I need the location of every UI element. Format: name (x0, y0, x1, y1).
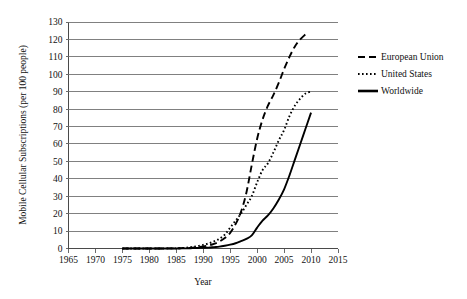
legend-label: Worldwide (381, 86, 423, 96)
legend-label: European Union (381, 52, 444, 62)
gridlines-group (69, 22, 339, 231)
line-chart-svg: 0102030405060708090100110120130 19651970… (0, 0, 467, 299)
y-axis-title: Mobile Cellular Subscriptions (per 100 p… (18, 45, 29, 225)
x-tick-label: 2015 (329, 255, 348, 265)
y-tick-label: 90 (53, 87, 63, 97)
legend: European UnionUnited StatesWorldwide (358, 52, 444, 96)
series-group (122, 34, 311, 248)
y-axis-group: 0102030405060708090100110120130 (48, 17, 68, 254)
legend-label: United States (381, 69, 432, 79)
x-tick-label: 2010 (302, 255, 321, 265)
y-tick-label: 60 (53, 139, 63, 149)
y-tick-label: 100 (48, 70, 63, 80)
y-tick-label: 80 (53, 105, 63, 115)
x-tick-label: 2005 (275, 255, 294, 265)
series-line-worldwide (122, 113, 311, 249)
y-tick-label: 40 (53, 174, 63, 184)
x-tick-label: 1990 (194, 255, 213, 265)
y-tick-label: 50 (53, 157, 63, 167)
x-tick-label: 2000 (248, 255, 267, 265)
y-tick-label: 30 (53, 192, 63, 202)
x-tick-label: 1970 (86, 255, 105, 265)
x-tick-label: 1975 (113, 255, 132, 265)
x-tick-label: 1980 (140, 255, 159, 265)
x-axis-group: 1965197019751980198519901995200020052010… (59, 249, 348, 265)
x-tick-label: 1995 (221, 255, 240, 265)
y-tick-label: 20 (53, 209, 63, 219)
y-tick-label: 110 (49, 52, 63, 62)
y-tick-label: 0 (58, 244, 63, 254)
y-tick-label: 70 (53, 122, 63, 132)
y-tick-label: 10 (53, 226, 63, 236)
chart-figure: 0102030405060708090100110120130 19651970… (0, 0, 467, 299)
x-axis-title: Year (194, 277, 212, 287)
y-tick-label: 130 (48, 17, 63, 27)
x-tick-label: 1985 (167, 255, 186, 265)
x-tick-label: 1965 (59, 255, 78, 265)
y-tick-label: 120 (48, 35, 63, 45)
series-line-united-states (122, 92, 311, 249)
